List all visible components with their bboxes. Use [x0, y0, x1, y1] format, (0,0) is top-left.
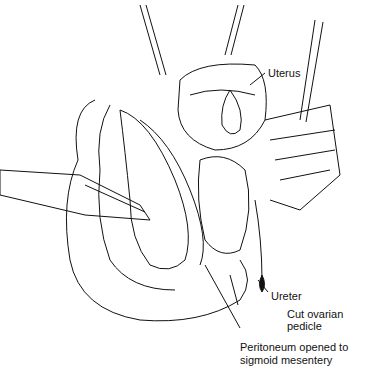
uterus	[178, 64, 266, 150]
leader-peritoneum	[205, 265, 240, 328]
label-ovarian-pedicle-2: pedicle	[287, 320, 322, 332]
label-peritoneum-1: Peritoneum opened to	[240, 341, 348, 353]
leader-pedicle	[230, 275, 238, 305]
label-peritoneum-2: sigmoid mesentery	[240, 354, 332, 366]
right-tissue	[265, 105, 340, 210]
retractor-far-right	[300, 20, 315, 120]
retractor-left	[140, 5, 160, 75]
label-ovarian-pedicle-1: Cut ovarian	[287, 308, 343, 320]
retractor-right	[225, 5, 238, 55]
ureter	[255, 200, 262, 280]
label-ureter: Ureter	[271, 290, 302, 302]
pelvic-cavity	[198, 157, 249, 254]
label-uterus: Uterus	[268, 67, 300, 79]
